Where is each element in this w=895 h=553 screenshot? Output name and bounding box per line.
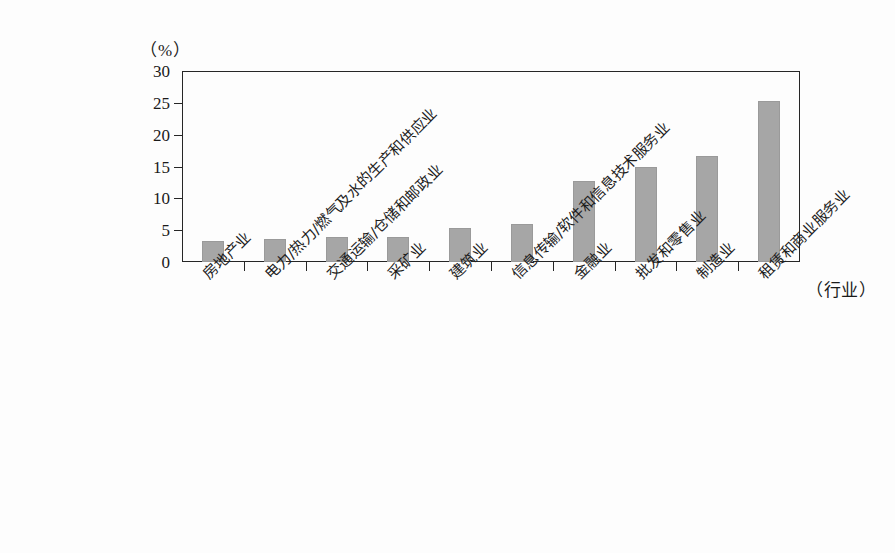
y-axis-tick-label: 25 (136, 94, 170, 111)
x-axis-tick (738, 262, 739, 271)
bar (696, 156, 718, 262)
y-axis-unit-label: （%） (140, 36, 191, 61)
y-axis-tick-label: 5 (136, 222, 170, 239)
x-axis-title: （行业） (806, 276, 876, 301)
y-axis-tick-label: 30 (136, 63, 170, 80)
x-axis-tick (306, 262, 307, 271)
x-axis-tick (553, 262, 554, 271)
bar-series (182, 71, 800, 262)
bar (758, 101, 780, 262)
y-axis-tick-label: 0 (136, 254, 170, 271)
x-axis-tick (615, 262, 616, 271)
x-axis-tick (244, 262, 245, 271)
chart-page: （%） 051015202530 房地产业电力/热力/燃气及水的生产和供应业交通… (0, 0, 895, 553)
x-axis-tick (429, 262, 430, 271)
bar (635, 167, 657, 262)
y-axis-tick-label: 15 (136, 158, 170, 175)
y-axis-tick-label: 10 (136, 190, 170, 207)
x-axis-tick (367, 262, 368, 271)
x-axis-tick (491, 262, 492, 271)
y-axis-tick-label: 20 (136, 126, 170, 143)
x-axis-tick (676, 262, 677, 271)
